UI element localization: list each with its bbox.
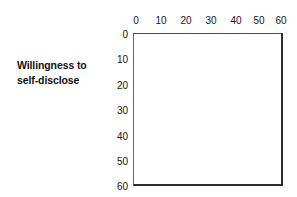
x-tick-label: 10: [150, 15, 172, 26]
x-tick-label: 60: [270, 15, 292, 26]
x-tick-label: 30: [200, 15, 222, 26]
y-tick-label: 60: [104, 181, 128, 192]
y-tick-label: 40: [104, 131, 128, 142]
y-tick-label: 0: [104, 29, 128, 40]
y-axis-caption: Willingness to self-disclose: [17, 58, 117, 88]
x-tick-label: 50: [248, 15, 270, 26]
y-axis-caption-line-1: Willingness to: [17, 58, 117, 73]
y-tick-label: 30: [104, 105, 128, 116]
x-tick-label: 40: [225, 15, 247, 26]
y-tick-label: 50: [104, 156, 128, 167]
x-tick-label: 20: [175, 15, 197, 26]
chart-figure: Willingness to self-disclose 0 10 20 30 …: [0, 0, 297, 197]
y-axis-caption-line-2: self-disclose: [17, 73, 117, 88]
x-tick-label: 0: [125, 15, 147, 26]
plot-area: [133, 33, 283, 186]
